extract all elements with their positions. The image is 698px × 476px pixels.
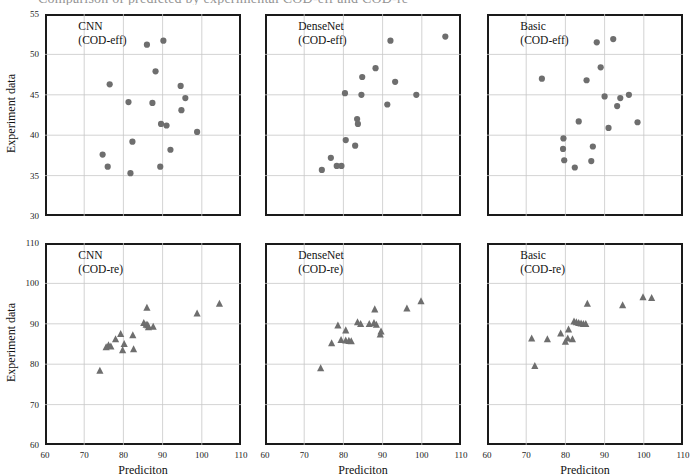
data-point bbox=[160, 38, 166, 44]
data-point bbox=[372, 65, 378, 71]
data-point bbox=[417, 297, 424, 304]
data-point bbox=[328, 339, 335, 346]
data-point bbox=[584, 300, 591, 307]
x-axis-tick-label: 90 bbox=[150, 450, 176, 460]
x-axis-tick-label: 80 bbox=[330, 450, 356, 460]
panel-title-model: Basic bbox=[520, 20, 546, 32]
y-axis-tick-label: 30 bbox=[13, 211, 39, 221]
data-point bbox=[617, 95, 623, 101]
panel-title-metric: (COD-re) bbox=[520, 263, 565, 277]
data-points-layer bbox=[265, 14, 461, 216]
data-point bbox=[105, 164, 111, 170]
x-axis-title: Prediciton bbox=[338, 463, 387, 476]
panel-title-model: CNN bbox=[78, 20, 102, 32]
data-point bbox=[639, 293, 646, 300]
data-point bbox=[442, 34, 448, 40]
panel-title: DenseNet(COD-eff) bbox=[298, 20, 346, 47]
data-point bbox=[96, 367, 103, 374]
x-axis-tick-label: 90 bbox=[370, 450, 396, 460]
panel-title: CNN(COD-re) bbox=[78, 249, 123, 276]
data-points-layer bbox=[487, 14, 683, 216]
x-axis-tick-label: 60 bbox=[32, 450, 58, 460]
data-point bbox=[352, 143, 358, 149]
y-axis-tick-label: 110 bbox=[13, 238, 39, 248]
data-point bbox=[614, 103, 620, 109]
data-point bbox=[194, 309, 201, 316]
scatter-panel-top-middle: DenseNet(COD-eff) bbox=[265, 14, 461, 216]
data-point bbox=[355, 121, 361, 127]
panel-title-metric: (COD-eff) bbox=[78, 34, 126, 48]
data-point bbox=[342, 90, 348, 96]
data-point bbox=[557, 330, 564, 337]
scatter-panel-bottom-middle: DenseNet(COD-re) bbox=[265, 243, 461, 445]
data-point bbox=[560, 146, 566, 152]
data-point bbox=[544, 335, 551, 342]
data-point bbox=[127, 170, 133, 176]
data-point bbox=[107, 81, 113, 87]
data-point bbox=[358, 92, 364, 98]
data-point bbox=[334, 322, 341, 329]
figure-scatter-grid: CNN(COD-eff)303540455055Experiment dataD… bbox=[0, 0, 698, 476]
data-point bbox=[317, 364, 324, 371]
data-point bbox=[167, 147, 173, 153]
data-point bbox=[605, 125, 611, 131]
data-point bbox=[117, 330, 124, 337]
data-point bbox=[125, 99, 131, 105]
data-point bbox=[403, 305, 410, 312]
data-points-layer bbox=[265, 243, 461, 445]
data-point bbox=[371, 305, 378, 312]
scatter-panel-top-left: CNN(COD-eff) bbox=[45, 14, 241, 216]
data-point bbox=[119, 346, 126, 353]
data-point bbox=[576, 118, 582, 124]
data-point bbox=[531, 362, 538, 369]
x-axis-tick-label: 100 bbox=[631, 450, 657, 460]
data-point bbox=[163, 122, 169, 128]
data-point bbox=[561, 157, 567, 163]
scatter-panel-top-right: Basic(COD-eff) bbox=[487, 14, 683, 216]
data-point bbox=[144, 42, 150, 48]
data-point bbox=[121, 340, 128, 347]
data-point bbox=[343, 137, 349, 143]
x-axis-tick-label: 70 bbox=[513, 450, 539, 460]
data-point bbox=[598, 64, 604, 70]
panel-title-model: DenseNet bbox=[298, 20, 343, 32]
panel-title: DenseNet(COD-re) bbox=[298, 249, 343, 276]
data-point bbox=[100, 151, 106, 157]
x-axis-title: Prediciton bbox=[118, 463, 167, 476]
y-axis-tick-label: 60 bbox=[13, 440, 39, 450]
panel-title: CNN(COD-eff) bbox=[78, 20, 126, 47]
data-point bbox=[590, 143, 596, 149]
data-point bbox=[619, 301, 626, 308]
data-point bbox=[539, 76, 545, 82]
data-point bbox=[178, 107, 184, 113]
panel-title-metric: (COD-eff) bbox=[520, 34, 568, 48]
panel-title-metric: (COD-eff) bbox=[298, 34, 346, 48]
data-point bbox=[158, 121, 164, 127]
data-point bbox=[182, 95, 188, 101]
panel-title-model: Basic bbox=[520, 249, 546, 261]
data-points-layer bbox=[45, 14, 241, 216]
data-point bbox=[359, 74, 365, 80]
data-point bbox=[129, 331, 136, 338]
x-axis-tick-label: 100 bbox=[189, 450, 215, 460]
data-point bbox=[560, 135, 566, 141]
data-point bbox=[150, 323, 157, 330]
x-axis-tick-label: 90 bbox=[592, 450, 618, 460]
x-axis-tick-label: 110 bbox=[228, 450, 254, 460]
y-axis-tick-label: 55 bbox=[13, 9, 39, 19]
x-axis-tick-label: 80 bbox=[552, 450, 578, 460]
data-point bbox=[152, 68, 158, 74]
x-axis-tick-label: 60 bbox=[474, 450, 500, 460]
panel-title: Basic(COD-re) bbox=[520, 249, 565, 276]
data-point bbox=[648, 294, 655, 301]
scatter-panel-bottom-right: Basic(COD-re) bbox=[487, 243, 683, 445]
data-point bbox=[338, 163, 344, 169]
data-point bbox=[387, 38, 393, 44]
x-axis-title: Prediciton bbox=[560, 463, 609, 476]
data-point bbox=[588, 158, 594, 164]
panel-title-model: CNN bbox=[78, 249, 102, 261]
data-point bbox=[565, 326, 572, 333]
data-point bbox=[572, 164, 578, 170]
x-axis-tick-label: 110 bbox=[670, 450, 696, 460]
data-point bbox=[178, 83, 184, 89]
